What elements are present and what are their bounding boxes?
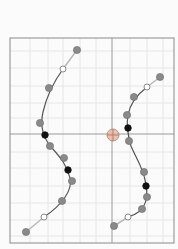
control-point[interactable] — [46, 142, 53, 149]
diagram-canvas — [0, 0, 178, 249]
anchor-point-key[interactable] — [65, 167, 71, 173]
control-point[interactable] — [45, 84, 52, 91]
control-point[interactable] — [140, 168, 147, 175]
control-point-hollow[interactable] — [41, 214, 47, 220]
control-point[interactable] — [156, 73, 163, 80]
control-point-hollow[interactable] — [144, 84, 150, 90]
control-point[interactable] — [60, 154, 67, 161]
control-point-hollow[interactable] — [125, 214, 131, 220]
control-point[interactable] — [130, 93, 137, 100]
plot-frame — [10, 38, 174, 243]
control-point[interactable] — [58, 197, 65, 204]
control-point[interactable] — [123, 111, 130, 118]
center-crosshair-icon[interactable] — [107, 129, 119, 141]
left-curve[interactable] — [22, 46, 80, 235]
control-point[interactable] — [138, 205, 145, 212]
control-point[interactable] — [73, 46, 80, 53]
anchor-point-key[interactable] — [143, 183, 149, 189]
grid-lines — [10, 38, 174, 243]
control-point[interactable] — [68, 177, 75, 184]
curves-layer — [22, 46, 163, 235]
control-point[interactable] — [22, 228, 29, 235]
control-point[interactable] — [143, 193, 150, 200]
curve-path[interactable] — [42, 69, 71, 217]
control-point-hollow[interactable] — [60, 66, 66, 72]
control-point[interactable] — [110, 222, 117, 229]
anchor-point-key[interactable] — [42, 132, 48, 138]
control-point[interactable] — [125, 137, 132, 144]
control-point[interactable] — [36, 119, 43, 126]
anchor-point-key[interactable] — [125, 125, 131, 131]
